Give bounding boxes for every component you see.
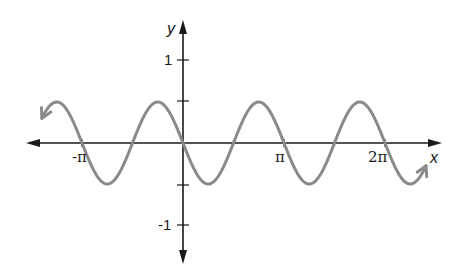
y-axis-label: y xyxy=(166,20,176,37)
sine-graph: y x 1 -1 -π π 2π xyxy=(0,0,458,279)
y-axis-top-arrow-icon xyxy=(179,20,187,34)
x-tick-label-pi: π xyxy=(275,148,285,166)
x-tick-label-neg-pi: -π xyxy=(72,148,87,166)
x-axis-left-arrow-icon xyxy=(26,139,40,147)
x-axis-right-arrow-icon xyxy=(428,139,442,147)
x-tick-label-2pi: 2π xyxy=(368,148,388,166)
x-axis-label: x xyxy=(429,149,439,166)
y-axis-bottom-arrow-icon xyxy=(179,250,187,264)
y-tick-label-neg1: -1 xyxy=(158,216,171,233)
y-tick-label-1: 1 xyxy=(164,51,172,68)
